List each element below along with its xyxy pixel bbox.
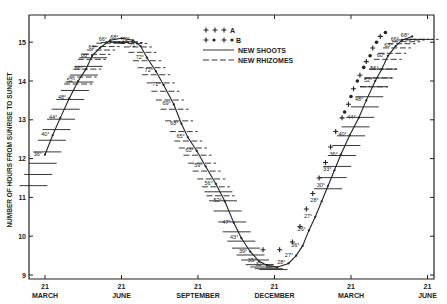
x-tick-month: MARCH — [32, 292, 58, 299]
y-tick-label: 14 — [18, 78, 26, 85]
curve-point — [321, 200, 323, 202]
y-tick-label: 13 — [18, 116, 26, 123]
x-tick-day: 21 — [118, 283, 126, 290]
curve-point — [85, 68, 87, 70]
curve-point — [358, 117, 360, 119]
series-a-plus — [277, 247, 282, 252]
x-tick-month: JUNE — [112, 292, 131, 299]
temperature-label: 44° — [347, 114, 355, 120]
temperature-label: 71° — [129, 42, 137, 48]
legend-plus-marker — [222, 28, 227, 33]
y-tick-label: 9 — [22, 272, 26, 279]
x-tick-day: 21 — [41, 283, 49, 290]
temperature-label: 48° — [58, 94, 66, 100]
curve-point — [205, 165, 207, 167]
curve-point — [44, 154, 46, 156]
curve-point — [374, 80, 376, 82]
temperature-label: 48° — [355, 96, 363, 102]
curve-point — [162, 84, 164, 86]
curve-point — [295, 255, 297, 257]
series-a-plus — [340, 115, 345, 120]
temperature-label: 60° — [377, 52, 385, 58]
curve-point — [68, 97, 70, 99]
series-b-dot — [356, 79, 360, 83]
temperature-label: 56° — [74, 65, 82, 71]
temperature-label: 27° — [285, 252, 293, 258]
curve-point — [215, 183, 217, 185]
temperature-label: 68° — [401, 32, 409, 38]
series-a-plus — [351, 86, 356, 91]
legend: ABNEW SHOOTSNEW RHIZOMES — [203, 27, 294, 64]
temperature-label: 66° — [391, 36, 399, 42]
y-tick-label: 11 — [19, 194, 27, 201]
curve-point — [411, 35, 413, 37]
temperature-label: 69° — [162, 100, 170, 106]
temperature-label: 26° — [291, 242, 299, 248]
temperature-label: 72° — [145, 67, 153, 73]
y-axis-label: NUMBER OF HOURS FROM SUNRISE TO SUNSET — [6, 72, 13, 227]
temperature-label: 52° — [67, 77, 75, 83]
temperature-label: 30° — [266, 263, 274, 269]
series-a-plus — [364, 59, 369, 64]
temperature-label: 63° — [384, 42, 392, 48]
x-tick-day: 21 — [271, 283, 279, 290]
legend-label-b: B — [236, 37, 241, 44]
series-a-plus — [304, 207, 309, 212]
legend-label-new-rhizomes: NEW RHIZOMES — [238, 57, 294, 64]
temperature-label: 71° — [152, 81, 160, 87]
temperature-label: 33° — [323, 166, 331, 172]
legend-dot-marker — [230, 38, 233, 41]
temperature-label: 44° — [49, 114, 57, 120]
legend-plus-marker — [213, 28, 218, 33]
series-b-dot — [362, 66, 366, 70]
series-a-plus — [323, 160, 328, 165]
temperature-label: 47° — [222, 219, 230, 225]
x-tick-month: JUNE — [418, 292, 437, 299]
legend-label-new-shoots: NEW SHOOTS — [238, 47, 286, 54]
curve-point — [387, 55, 389, 57]
curve-point — [77, 80, 79, 82]
temperature-label: 28° — [310, 197, 318, 203]
curve-point — [132, 39, 134, 41]
temperature-label: 52° — [213, 197, 221, 203]
temperature-label: 65° — [176, 133, 184, 139]
temperature-label: 39° — [239, 248, 247, 254]
temperature-label: 60° — [81, 52, 89, 58]
curve-point — [140, 45, 142, 47]
legend-plus-marker — [204, 28, 209, 33]
legend-label-a: A — [230, 27, 235, 34]
curve-point — [52, 134, 54, 136]
series-b-dot — [368, 54, 372, 58]
curve-point — [99, 47, 101, 49]
temperature-label: 59° — [194, 162, 202, 168]
temperature-label: 36° — [34, 151, 42, 157]
series-a-plus — [310, 191, 315, 196]
daylength-curve — [45, 36, 412, 267]
temperature-label: 52° — [364, 77, 372, 83]
temperature-label: 40° — [338, 131, 346, 137]
y-tick-label: 10 — [18, 233, 26, 240]
x-tick-day: 21 — [424, 283, 432, 290]
temperature-label: 63° — [185, 147, 193, 153]
series-a-plus — [317, 176, 322, 181]
curve-point — [249, 251, 251, 253]
curve-point — [276, 266, 278, 268]
series-a-plus — [357, 73, 362, 78]
curve-point — [155, 70, 157, 72]
curve-point — [187, 136, 189, 138]
curve-point — [180, 123, 182, 125]
series-a-plus — [370, 46, 375, 51]
temperature-label: 32° — [256, 261, 264, 267]
curve-point — [381, 68, 383, 70]
temperature-labels: 36°40°44°48°52°56°60°63°66°68°70°71°72°7… — [34, 32, 410, 269]
x-tick-month: SEPTEMBER — [176, 292, 220, 299]
x-tick-month: DECEMBER — [254, 292, 294, 299]
x-tick-day: 21 — [194, 283, 202, 290]
curve-point — [340, 154, 342, 156]
temperature-label: 68° — [170, 120, 178, 126]
legend-plus-marker — [204, 38, 209, 43]
legend-dot-marker — [212, 38, 215, 41]
series-a-plus — [378, 34, 383, 39]
y-tick-label: 12 — [18, 155, 26, 162]
curve-point — [349, 134, 351, 136]
